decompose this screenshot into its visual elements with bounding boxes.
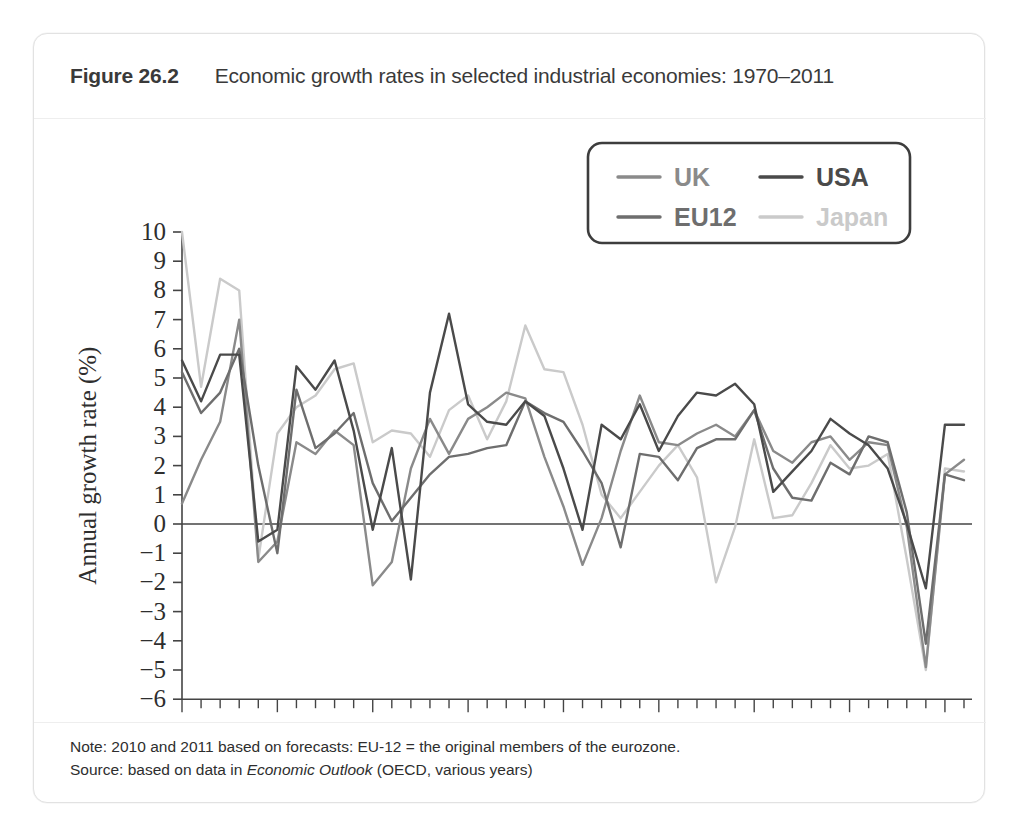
figure-source-suffix: (OECD, various years) bbox=[372, 761, 532, 778]
x-axis: 197019751980198519901995200020052010 bbox=[157, 699, 972, 724]
y-tick-label: 0 bbox=[154, 510, 167, 537]
series-line-usa bbox=[182, 314, 964, 588]
y-tick-label: 10 bbox=[141, 218, 166, 245]
legend-label-usa[interactable]: USA bbox=[816, 163, 869, 191]
y-tick-label: 5 bbox=[154, 364, 167, 391]
y-axis-title-text: Annual growth rate (%) bbox=[74, 347, 102, 585]
y-tick-label: 6 bbox=[154, 335, 167, 362]
y-axis-title: Annual growth rate (%) bbox=[74, 347, 102, 585]
y-tick-label: −6 bbox=[139, 685, 166, 712]
growth-rate-line-chart: 109876543210−1−2−3−4−5−6 197019751980198… bbox=[34, 119, 986, 724]
y-tick-label: −2 bbox=[139, 568, 166, 595]
y-tick-label: 1 bbox=[154, 481, 167, 508]
figure-footer: Note: 2010 and 2011 based on forecasts: … bbox=[34, 722, 986, 802]
figure-card: Figure 26.2 Economic growth rates in sel… bbox=[33, 33, 985, 803]
y-tick-label: 9 bbox=[154, 247, 167, 274]
figure-source-prefix: Source: based on data in bbox=[70, 761, 247, 778]
y-tick-label: −3 bbox=[139, 598, 166, 625]
y-tick-label: 8 bbox=[154, 276, 167, 303]
figure-source-publication: Economic Outlook bbox=[247, 761, 373, 778]
y-tick-label: −1 bbox=[139, 539, 166, 566]
y-tick-label: 7 bbox=[154, 306, 167, 333]
figure-source: Source: based on data in Economic Outloo… bbox=[70, 759, 986, 782]
figure-page: Figure 26.2 Economic growth rates in sel… bbox=[0, 0, 1016, 834]
legend-label-uk[interactable]: UK bbox=[674, 163, 710, 191]
data-series-group bbox=[182, 232, 964, 670]
figure-note: Note: 2010 and 2011 based on forecasts: … bbox=[70, 736, 986, 759]
y-tick-label: −5 bbox=[139, 656, 166, 683]
y-tick-label: −4 bbox=[139, 627, 166, 654]
figure-title: Economic growth rates in selected indust… bbox=[215, 64, 834, 88]
legend-label-japan[interactable]: Japan bbox=[816, 203, 888, 231]
figure-note-text: Note: 2010 and 2011 based on forecasts: … bbox=[70, 738, 680, 755]
legend-label-eu12[interactable]: EU12 bbox=[674, 203, 737, 231]
chart-legend[interactable]: UKUSAEU12Japan bbox=[588, 143, 910, 243]
series-line-uk bbox=[182, 320, 964, 667]
chart-plot-region: 109876543210−1−2−3−4−5−6 197019751980198… bbox=[34, 119, 986, 724]
figure-number: Figure 26.2 bbox=[70, 64, 179, 88]
y-tick-label: 2 bbox=[154, 452, 167, 479]
series-line-japan bbox=[182, 232, 964, 670]
y-tick-label: 4 bbox=[154, 393, 167, 420]
y-axis: 109876543210−1−2−3−4−5−6 bbox=[139, 218, 182, 712]
y-tick-label: 3 bbox=[154, 422, 167, 449]
figure-header: Figure 26.2 Economic growth rates in sel… bbox=[34, 34, 986, 119]
